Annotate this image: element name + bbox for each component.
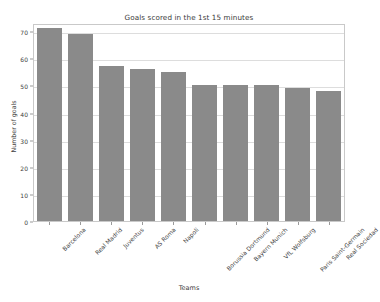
y-tick-label: 70 xyxy=(20,29,28,36)
bar-series xyxy=(34,25,344,221)
x-tick-mark xyxy=(49,222,50,225)
bar[interactable] xyxy=(223,85,248,221)
x-tick-mark xyxy=(267,222,268,225)
bar[interactable] xyxy=(316,91,341,221)
y-tick-label: 10 xyxy=(20,191,28,198)
x-axis-tick-labels: BarcelonaReal MadridJuventusAS RomaNapol… xyxy=(33,226,345,282)
x-axis-label: Teams xyxy=(33,284,345,292)
y-tick-label: 40 xyxy=(20,110,28,117)
y-tick-label: 30 xyxy=(20,137,28,144)
x-tick-label: Barcelona xyxy=(60,226,86,252)
x-tick-mark xyxy=(142,222,143,225)
bar[interactable] xyxy=(130,69,155,221)
bar[interactable] xyxy=(68,34,93,221)
bar[interactable] xyxy=(254,85,279,221)
y-tick-label: 60 xyxy=(20,56,28,63)
x-tick-mark xyxy=(80,222,81,225)
x-tick-mark xyxy=(298,222,299,225)
x-tick-mark xyxy=(205,222,206,225)
plot-area xyxy=(33,24,345,222)
x-tick-label: AS Roma xyxy=(153,226,177,250)
bar[interactable] xyxy=(37,28,62,221)
bar[interactable] xyxy=(192,85,217,221)
x-tick-mark xyxy=(236,222,237,225)
y-axis: 010203040506070 xyxy=(0,24,33,222)
y-axis-label: Number of goals xyxy=(10,82,17,172)
x-tick-label: Real Madrid xyxy=(93,226,123,256)
x-tick-label: Juventus xyxy=(122,226,145,249)
bar[interactable] xyxy=(285,88,310,221)
y-tick-label: 50 xyxy=(20,83,28,90)
bar[interactable] xyxy=(99,66,124,221)
x-tick-label: Napoli xyxy=(182,226,200,244)
chart-title: Goals scored in the 1st 15 minutes xyxy=(33,13,345,22)
x-tick-mark xyxy=(329,222,330,225)
x-tick-mark xyxy=(111,222,112,225)
x-tick-mark xyxy=(173,222,174,225)
bar[interactable] xyxy=(161,72,186,221)
y-tick-label: 0 xyxy=(24,219,28,226)
y-tick-label: 20 xyxy=(20,164,28,171)
